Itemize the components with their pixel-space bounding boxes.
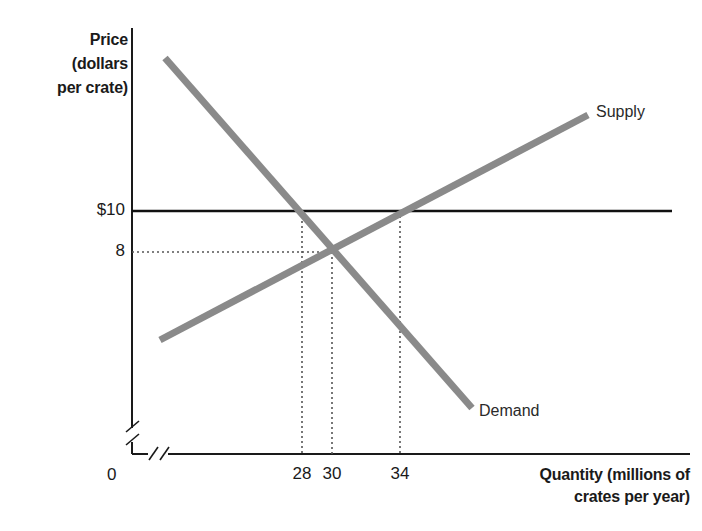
x-axis-title-line-1: Quantity (millions of (540, 466, 690, 483)
y-axis-tick-label-8: 8 (65, 241, 125, 261)
demand-curve (165, 58, 472, 408)
y-axis-title: Price(dollarsper crate) (0, 28, 128, 100)
y-axis-tick-label-10: $10 (65, 200, 125, 220)
supply-demand-chart: Price(dollarsper crate) Quantity (millio… (0, 0, 702, 531)
origin-label: 0 (107, 465, 116, 485)
x-axis-title: Quantity (millions ofcrates per year) (390, 464, 690, 508)
x-axis-title-line-2: crates per year) (574, 488, 690, 505)
y-axis-title-line-3: per crate) (57, 79, 128, 96)
x-axis-tick-label-34: 34 (380, 464, 420, 484)
x-axis-break-mark-left (149, 447, 158, 460)
y-axis-title-line-2: (dollars (72, 55, 128, 72)
x-axis-tick-label-30: 30 (312, 464, 352, 484)
demand-curve-label: Demand (479, 402, 539, 420)
supply-curve-label: Supply (596, 103, 645, 121)
y-axis-title-line-1: Price (90, 31, 128, 48)
supply-curve (160, 115, 588, 340)
x-axis-break-mark-right (160, 447, 169, 460)
